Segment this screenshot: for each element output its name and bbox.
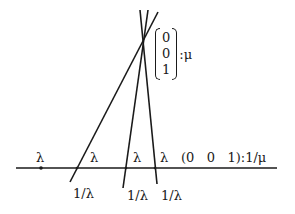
intersection-point-2 [125, 167, 128, 170]
label-lambda-1: λ [90, 151, 98, 164]
diagram-canvas [0, 0, 295, 214]
vector-entries: 0 0 1 [160, 30, 172, 78]
intersection-point-1 [76, 167, 79, 170]
label-inv-lambda-3: 1/λ [161, 189, 182, 202]
vector-entry-1: 0 [162, 30, 170, 46]
vector-entry-3: 1 [162, 62, 170, 78]
vector-entry-2: 0 [162, 46, 170, 62]
marked-point [39, 166, 43, 170]
label-lambda-3: λ [160, 151, 168, 164]
intersection-point-3 [154, 167, 157, 170]
column-vector: 0 0 1 :μ [155, 28, 192, 80]
vector-suffix: :μ [179, 47, 192, 62]
label-inv-lambda-1: 1/λ [73, 187, 94, 200]
label-inv-lambda-2: 1/λ [127, 189, 148, 202]
label-row-vector: (0 0 1):1/μ [181, 151, 266, 164]
label-lambda-point: λ [36, 151, 44, 164]
label-lambda-2: λ [133, 151, 141, 164]
right-paren [172, 28, 177, 80]
